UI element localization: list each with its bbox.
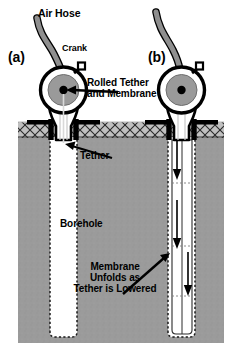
- diagram-svg: [0, 0, 242, 356]
- label-crank: Crank: [62, 44, 87, 54]
- figure-canvas: Air Hose Crank (a) (b) Rolled Tether and…: [0, 0, 242, 356]
- air-hose-a: [37, 18, 61, 70]
- label-tether: Tether: [80, 151, 109, 162]
- label-panel-b: (b): [148, 50, 166, 65]
- borehole-a: [50, 137, 77, 337]
- label-borehole: Borehole: [60, 219, 103, 230]
- membrane-column-b: [172, 140, 192, 334]
- label-rolled-tether-and-membrane: Rolled Tether and Membrane: [87, 78, 156, 100]
- label-panel-a: (a): [8, 50, 25, 65]
- label-membrane-unfolds: Membrane Unfolds as Tether is Lowered: [60, 262, 170, 294]
- spool-b: [159, 63, 205, 114]
- label-air-hose: Air Hose: [38, 8, 80, 19]
